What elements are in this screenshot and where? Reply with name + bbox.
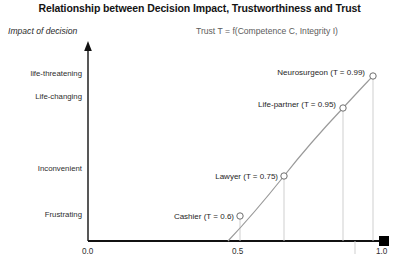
y-tick-label-inconvenient: Inconvenient <box>4 164 82 173</box>
y-axis-arrow-icon <box>84 41 92 51</box>
x-tick-label-0: 0.0 <box>82 247 93 256</box>
point-label-lawyer: Lawyer (T = 0.75) <box>158 172 278 181</box>
plot-area <box>0 0 399 269</box>
y-tick-label-frustrating: Frustrating <box>4 210 82 219</box>
x-tick-label-2: 1.0 <box>376 247 387 256</box>
x-axis-end-marker-icon <box>379 236 389 246</box>
marker-neurosurgeon <box>370 73 376 79</box>
chart-page: Relationship between Decision Impact, Tr… <box>0 0 399 269</box>
x-axis <box>88 236 389 246</box>
x-tick-label-1: 0.5 <box>232 247 243 256</box>
point-label-life-partner: Life-partner (T = 0.95) <box>211 100 336 109</box>
marker-life-partner <box>340 105 346 111</box>
marker-cashier <box>237 213 243 219</box>
point-label-cashier: Cashier (T = 0.6) <box>116 212 234 221</box>
marker-lawyer <box>281 173 287 179</box>
y-tick-label-life-threatening: life-threatening <box>4 69 82 78</box>
point-label-neurosurgeon: Neurosurgeon (T = 0.99) <box>236 68 365 77</box>
y-tick-label-life-changing: Life-changing <box>4 92 82 101</box>
y-axis <box>84 41 92 241</box>
